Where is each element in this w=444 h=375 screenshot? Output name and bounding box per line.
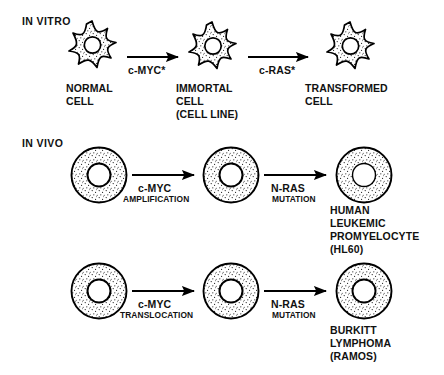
cell-label-ramos-line2: LYMPHOMA — [330, 337, 391, 350]
diagram-canvas — [0, 0, 444, 375]
cell-label-hl60-line4: (HL60) — [330, 243, 363, 256]
arrow-sublabel-mutation-1: MUTATION — [272, 195, 316, 205]
cell-label-transformed-cell-line2: CELL — [305, 95, 333, 108]
arrow-label-nras-2: N-RAS — [271, 298, 305, 310]
arrow-label-cmyc-2: c-MYC — [138, 298, 171, 310]
row-in-vivo-hl60 — [72, 148, 392, 203]
cell-amplified-cell — [204, 148, 259, 203]
cell-normal-round-cell-1 — [72, 148, 127, 203]
cell-label-immortal-cell-line2: CELL — [176, 95, 204, 108]
row-in-vitro — [69, 21, 374, 69]
cell-translocated-cell — [204, 264, 259, 319]
cell-normal-cell — [69, 21, 116, 68]
cell-label-hl60-line3: PROMYELOCYTE — [330, 230, 419, 243]
arrow-sublabel-mutation-2: MUTATION — [272, 311, 316, 321]
cell-label-normal-cell-line1: NORMAL — [66, 82, 113, 95]
cell-label-hl60-line1: HUMAN — [330, 204, 370, 217]
arrow-label-cras-star: c-RAS* — [259, 64, 295, 76]
cell-normal-round-cell-2 — [72, 264, 127, 319]
section-title-in-vitro: IN VITRO — [22, 15, 71, 27]
cell-label-transformed-cell-line1: TRANSFORMED — [305, 82, 388, 95]
arrow-label-cmyc-1: c-MYC — [138, 182, 171, 194]
oncogene-cooperation-diagram: IN VITRO IN VIVO c-MYC* c-RAS* NORMAL CE… — [0, 0, 444, 375]
cell-label-ramos-line3: (RAMOS) — [330, 350, 377, 363]
cell-label-immortal-cell-line1: IMMORTAL — [176, 82, 233, 95]
cell-hl60-cell — [337, 148, 392, 203]
arrow-sublabel-amplification: AMPLIFICATION — [123, 195, 189, 205]
cell-label-hl60-line2: LEUKEMIC — [330, 217, 386, 230]
cell-immortal-cell — [189, 22, 236, 69]
cell-label-normal-cell-line2: CELL — [66, 95, 94, 108]
cell-label-ramos-line1: BURKITT — [330, 324, 377, 337]
cell-transformed-cell — [327, 22, 374, 69]
arrow-label-nras-1: N-RAS — [271, 182, 305, 194]
arrow-sublabel-translocation: TRANSLOCATION — [120, 311, 193, 321]
arrow-label-cmyc-star: c-MYC* — [128, 64, 165, 76]
section-title-in-vivo: IN VIVO — [22, 137, 63, 149]
cell-ramos-cell — [337, 264, 392, 319]
cell-label-immortal-cell-line3: (CELL LINE) — [176, 108, 238, 121]
